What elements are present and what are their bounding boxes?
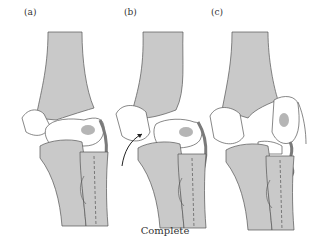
elbow-diagram (0, 0, 320, 245)
panel-c-illustration (210, 32, 306, 230)
figure-caption: Complete (0, 225, 320, 236)
panel-b-illustration (116, 32, 206, 228)
panel-a-illustration (22, 32, 108, 226)
